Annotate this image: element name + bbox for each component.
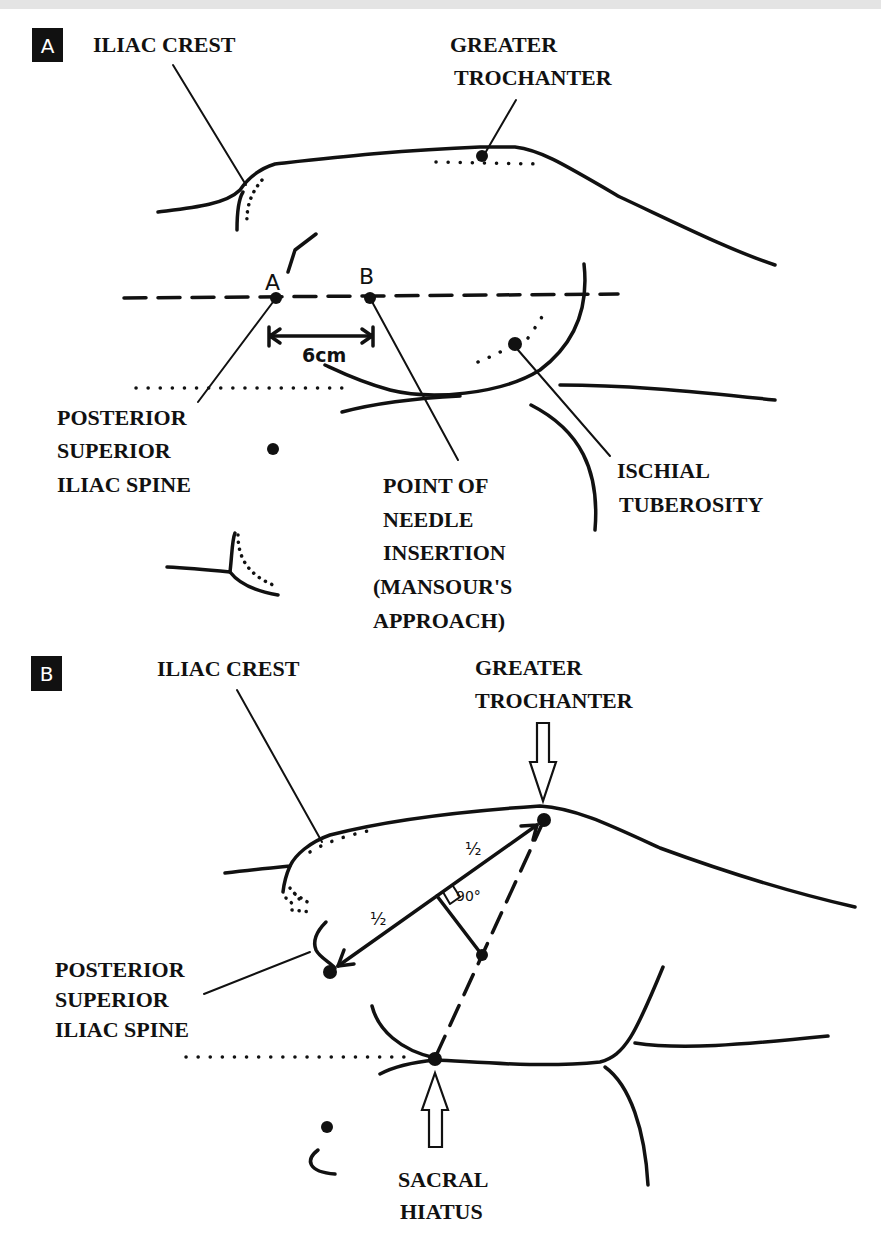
- label-needle-1: POINT OF: [383, 473, 488, 498]
- iliac-crest-dots-cluster: [286, 888, 312, 912]
- trochanter-dots-a: [436, 162, 540, 164]
- iliac-crest-dots-a: [247, 180, 262, 225]
- label-greater-trochanter-b-1: GREATER: [475, 655, 583, 680]
- label-psis-a-3: ILIAC SPINE: [57, 472, 191, 497]
- thigh-back-b: [605, 1067, 648, 1185]
- label-ischial-2: TUBEROSITY: [619, 492, 763, 517]
- lower-hook-a: [167, 533, 235, 572]
- label-psis-b-3: ILIAC SPINE: [55, 1017, 189, 1042]
- half-label-upper: ½: [465, 839, 481, 859]
- leader-ischial: [518, 350, 610, 456]
- label-needle-4: (MANSOUR'S: [373, 574, 512, 599]
- small-dot-b: [321, 1121, 333, 1133]
- point-a-letter: A: [265, 270, 280, 295]
- label-sacral-1: SACRAL: [398, 1167, 488, 1192]
- ischial-dots-left: [478, 345, 512, 362]
- label-sacral-2: HIATUS: [400, 1199, 483, 1224]
- label-psis-b-1: POSTERIOR: [55, 957, 186, 982]
- label-psis-b-2: SUPERIOR: [55, 987, 170, 1012]
- panel-b: B ILIAC CREST GREATER TROCHANTER ½ ½ 90°: [31, 655, 855, 1224]
- panel-b-letter: B: [40, 662, 54, 686]
- label-needle-2: NEEDLE: [383, 507, 473, 532]
- thigh-line-a: [560, 385, 775, 400]
- label-iliac-crest-a: ILIAC CREST: [93, 32, 236, 57]
- leader-psis-a: [198, 298, 276, 402]
- angle-label: 90°: [456, 888, 481, 904]
- perpendicular-line: [437, 896, 482, 955]
- leader-needle-a: [370, 298, 458, 460]
- label-psis-a-1: POSTERIOR: [57, 405, 188, 430]
- thigh-back-a: [531, 405, 596, 530]
- label-iliac-crest-b: ILIAC CREST: [157, 656, 300, 681]
- half-label-lower: ½: [370, 909, 386, 929]
- ischial-point: [508, 337, 522, 351]
- label-greater-trochanter-a-2: TROCHANTER: [454, 65, 613, 90]
- lower-hook-dots-a: [238, 535, 273, 585]
- label-needle-5: APPROACH): [373, 608, 505, 633]
- greater-trochanter-point-a: [476, 150, 488, 162]
- gluteal-curve-b: [372, 1006, 435, 1058]
- leader-psis-b: [204, 952, 310, 994]
- point-b-letter: B: [359, 264, 374, 289]
- buttock-curve-b: [380, 967, 663, 1074]
- arrow-sacral-hiatus: [422, 1073, 448, 1147]
- measure-label: 6cm: [302, 344, 346, 366]
- coccyx-mark-b: [311, 1150, 335, 1174]
- sacral-hiatus-point: [428, 1052, 442, 1066]
- panel-a-letter: A: [41, 34, 55, 58]
- label-ischial-1: ISCHIAL: [617, 458, 710, 483]
- label-psis-a-2: SUPERIOR: [57, 438, 172, 463]
- psis-mark-b: [315, 922, 335, 968]
- psis-point-b: [323, 965, 337, 979]
- leader-iliac-crest-b: [237, 690, 322, 842]
- sacral-mark-a: [288, 234, 316, 272]
- gluteal-fold-a: [342, 396, 460, 412]
- label-greater-trochanter-b-2: TROCHANTER: [475, 688, 634, 713]
- label-needle-3: INSERTION: [383, 540, 506, 565]
- thigh-line-b: [635, 1036, 828, 1046]
- dashed-line-b: [435, 820, 544, 1058]
- leader-iliac-crest-a: [173, 65, 246, 185]
- ischial-dots-right: [528, 312, 545, 338]
- label-greater-trochanter-a-1: GREATER: [450, 32, 558, 57]
- iliac-crest-hook-a: [237, 192, 243, 230]
- anatomy-figure: A ILIAC CREST GREATER TROCHANTER A B 6cm: [0, 0, 881, 1233]
- small-dot-a: [267, 443, 279, 455]
- upper-contour-a: [158, 147, 775, 265]
- arrow-greater-trochanter: [530, 723, 556, 801]
- panel-a: A ILIAC CREST GREATER TROCHANTER A B 6cm: [32, 28, 775, 633]
